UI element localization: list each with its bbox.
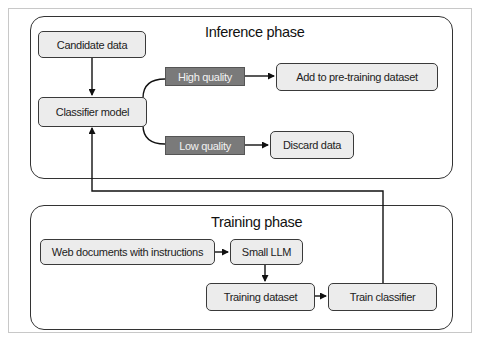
node-web-documents: Web documents with instructions (40, 239, 215, 265)
edge-classifier-to-high-quality (143, 79, 165, 98)
node-discard-data: Discard data (270, 131, 354, 159)
node-small-llm: Small LLM (230, 239, 303, 265)
node-candidate-data: Candidate data (38, 31, 146, 58)
node-train-classifier: Train classifier (328, 283, 437, 311)
node-classifier-model: Classifier model (38, 97, 147, 127)
tag-high-quality: High quality (165, 67, 245, 86)
node-training-dataset: Training dataset (206, 283, 315, 311)
node-add-to-pretraining-dataset: Add to pre-training dataset (276, 63, 438, 91)
edge-classifier-to-low-quality (143, 125, 165, 144)
tag-low-quality: Low quality (165, 136, 245, 155)
